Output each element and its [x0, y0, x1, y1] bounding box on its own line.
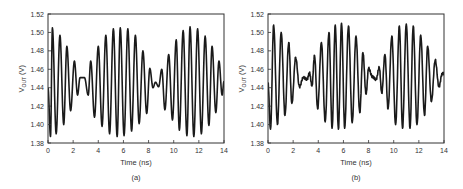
- y-tick-label: 1.48: [30, 47, 44, 54]
- y-axis-title: VOUT(V): [17, 64, 27, 92]
- chart-b-svg: 024681012141.381.401.421.441.461.481.501…: [220, 0, 463, 189]
- x-tick-label: 4: [316, 147, 320, 154]
- x-tick-label: 6: [341, 147, 345, 154]
- y-tick-label: 1.52: [30, 11, 44, 18]
- x-tick-label: 0: [46, 147, 50, 154]
- y-tick-label: 1.40: [250, 121, 264, 128]
- y-tick-label: 1.48: [250, 47, 264, 54]
- panel-label: (b): [351, 173, 361, 182]
- x-tick-label: 10: [170, 147, 178, 154]
- chart-panel-b: 024681012141.381.401.421.441.461.481.501…: [220, 0, 451, 189]
- y-tick-label: 1.44: [250, 84, 264, 91]
- y-tick-label: 1.46: [250, 66, 264, 73]
- chart-a-svg: 024681012141.381.401.421.441.461.481.501…: [0, 0, 231, 189]
- x-tick-label: 0: [266, 147, 270, 154]
- x-tick-label: 10: [390, 147, 398, 154]
- y-tick-label: 1.42: [250, 103, 264, 110]
- y-tick-label: 1.42: [30, 103, 44, 110]
- x-tick-label: 12: [415, 147, 423, 154]
- x-tick-label: 14: [440, 147, 448, 154]
- x-tick-label: 12: [195, 147, 203, 154]
- y-tick-label: 1.38: [30, 140, 44, 147]
- y-tick-label: 1.52: [250, 11, 264, 18]
- waveform-line: [268, 23, 444, 129]
- x-axis-title: Time (ns): [340, 158, 372, 167]
- x-tick-label: 2: [291, 147, 295, 154]
- x-tick-label: 8: [367, 147, 371, 154]
- x-tick-label: 8: [147, 147, 151, 154]
- x-axis-title: Time (ns): [120, 158, 152, 167]
- chart-panel-a: 024681012141.381.401.421.441.461.481.501…: [0, 0, 231, 189]
- x-tick-label: 4: [96, 147, 100, 154]
- y-axis-title: VOUT(V): [237, 64, 247, 92]
- y-tick-label: 1.38: [250, 140, 264, 147]
- waveform-line: [48, 27, 224, 137]
- panel-label: (a): [131, 173, 141, 182]
- y-tick-label: 1.44: [30, 84, 44, 91]
- y-tick-label: 1.50: [250, 29, 264, 36]
- x-tick-label: 2: [71, 147, 75, 154]
- y-tick-label: 1.40: [30, 121, 44, 128]
- y-tick-label: 1.50: [30, 29, 44, 36]
- y-tick-label: 1.46: [30, 66, 44, 73]
- x-tick-label: 6: [121, 147, 125, 154]
